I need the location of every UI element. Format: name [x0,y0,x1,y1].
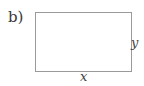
part-label: b) [8,8,23,26]
height-label: y [131,35,138,50]
width-label: x [80,69,87,84]
rectangle-shape [35,12,132,72]
